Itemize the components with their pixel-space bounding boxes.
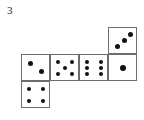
die-middle-4 <box>108 54 137 81</box>
die-pip <box>70 72 74 76</box>
die-pip <box>41 99 45 103</box>
die-pip <box>99 60 103 64</box>
die-pip <box>27 99 31 103</box>
die-pip <box>85 72 89 76</box>
die-middle-3 <box>79 54 108 81</box>
die-pip <box>85 66 89 70</box>
die-middle-2 <box>50 54 79 81</box>
die-pip <box>122 38 127 43</box>
die-pip <box>70 60 74 64</box>
die-pip <box>56 72 60 76</box>
die-top-right <box>108 27 137 54</box>
die-pip <box>99 72 103 76</box>
die-pip <box>99 66 103 70</box>
die-bottom-left <box>21 81 50 108</box>
die-pip <box>41 87 45 91</box>
die-pip <box>85 60 89 64</box>
die-pip <box>28 61 33 66</box>
die-pip <box>63 66 67 70</box>
die-pip <box>115 44 120 49</box>
die-pip <box>120 65 126 71</box>
dice-figure: 3 <box>0 0 144 120</box>
die-pip <box>56 60 60 64</box>
figure-number-label: 3 <box>7 4 13 16</box>
die-pip <box>27 87 31 91</box>
die-pip <box>128 32 133 37</box>
die-middle-1 <box>21 54 50 81</box>
die-pip <box>39 69 44 74</box>
